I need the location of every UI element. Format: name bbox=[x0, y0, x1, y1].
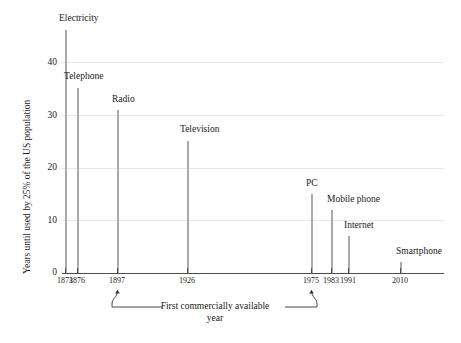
chart-container: Years until used by 25% of the US popula… bbox=[0, 0, 461, 343]
annotation-label-line1: First commercially available bbox=[140, 300, 290, 312]
annotation-label-line2: year bbox=[140, 312, 290, 324]
annotation-bracket bbox=[0, 0, 461, 343]
